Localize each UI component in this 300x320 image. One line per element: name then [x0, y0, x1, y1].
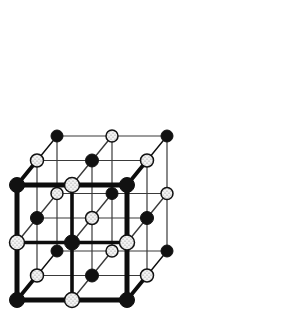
lattice-figure [0, 0, 300, 320]
cation-site-sphere [120, 293, 135, 308]
anion-site-sphere [106, 245, 118, 257]
cation-site-sphere [161, 245, 173, 257]
cation-site-sphere [120, 178, 135, 193]
cation-site-sphere [141, 212, 154, 225]
anion-site-sphere [161, 188, 173, 200]
cation-site-sphere [86, 154, 99, 167]
anion-site-sphere [106, 130, 118, 142]
cation-site-sphere [10, 293, 25, 308]
anion-site-sphere [65, 293, 80, 308]
anion-site-sphere [141, 154, 154, 167]
anion-site-sphere [10, 235, 25, 250]
cation-site-sphere [86, 269, 99, 282]
crystal-lattice-diagram [0, 0, 300, 320]
anion-site-sphere [31, 269, 44, 282]
anion-site-sphere [120, 235, 135, 250]
cation-site-sphere [161, 130, 173, 142]
cation-site-sphere [65, 235, 80, 250]
cation-site-sphere [51, 130, 63, 142]
lattice-atoms-layer [10, 130, 174, 308]
anion-site-sphere [65, 178, 80, 193]
anion-site-sphere [51, 188, 63, 200]
anion-site-sphere [86, 212, 99, 225]
cation-site-sphere [51, 245, 63, 257]
anion-site-sphere [141, 269, 154, 282]
cation-site-sphere [10, 178, 25, 193]
cation-site-sphere [31, 212, 44, 225]
anion-site-sphere [31, 154, 44, 167]
cation-site-sphere [106, 188, 118, 200]
